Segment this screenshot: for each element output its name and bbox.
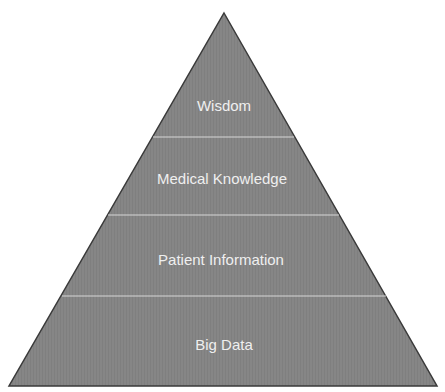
level-label-medical-knowledge: Medical Knowledge [157, 170, 287, 187]
level-label-big-data: Big Data [195, 336, 253, 353]
pyramid-diagram: Wisdom Medical Knowledge Patient Informa… [0, 0, 445, 392]
pyramid-shape [9, 13, 437, 386]
level-label-patient-information: Patient Information [158, 251, 284, 268]
level-label-wisdom: Wisdom [197, 97, 251, 114]
